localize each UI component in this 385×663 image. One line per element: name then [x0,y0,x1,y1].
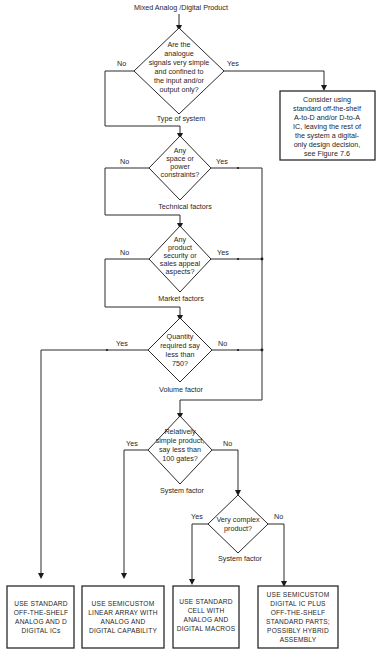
d5-line-1: Relatively [164,427,196,436]
d3-no-label: No [120,248,129,257]
consider-line-2: standard off-the-shelf [293,104,361,113]
d5-line-2: simple product, [156,436,205,445]
d5-no-connector [212,450,238,493]
outcome-standard-cell: USE STANDARD CELL WITH ANALOG AND DIGITA… [173,586,239,648]
d6-yes-connector [192,524,208,582]
d1-line-5: the input and/or [154,76,205,85]
outcome-standard-offshelf: USE STANDARD OFF-THE-SHELF ANALOG AND D … [7,586,74,648]
d1-line-3: signals very simple [149,58,210,67]
consider-line-6: only design decision, [294,140,361,149]
decision-technical-factors: Any space or power constraints? Technica… [120,136,228,211]
d1-factor-label: Type of system [157,114,205,123]
o4-line-5: POSSIBLY HYBRID [267,627,329,634]
decision-volume-factor: Quantity required say less than 750? Vol… [116,318,227,394]
d1-line-6: output only? [159,85,198,94]
o1-line-3: ANALOG AND D [15,618,67,625]
d1-yes-label: Yes [227,59,239,68]
d4-yes-label: Yes [116,339,128,348]
d1-line-4: and confined to [154,67,203,76]
o2-line-3: ANALOG AND [101,618,146,625]
o2-line-2: LINEAR ARRAY WITH [88,609,158,616]
o3-line-2: CELL WITH [188,607,225,614]
d1-line-1: Are the [167,40,190,49]
o4-line-2: DIGITAL IC PLUS [270,600,326,607]
consider-line-4: IC, leaving the rest of [293,122,361,131]
d4-line-4: 750? [172,359,188,368]
d6-no-connector [268,524,284,584]
decision-market-factors: Any product security or sales appeal asp… [120,226,229,303]
d4-yes-connector [41,350,148,576]
d2-no-label: No [120,157,129,166]
d5-yes-label: Yes [126,439,138,448]
d6-line-1: Very complex [216,515,260,524]
d1-no-label: No [117,59,126,68]
consider-line-1: Consider using [303,95,351,104]
d3-factor-label: Market factors [158,294,204,303]
o4-line-3: OFF-THE-SHELF [271,609,326,616]
d1-yes-connector [224,71,324,88]
d4-line-3: less than [166,350,195,359]
d2-yes-label: Yes [216,157,228,166]
d6-line-2: product? [224,524,252,533]
diagram-title: Mixed Analog /Digital Product [134,3,228,12]
o4-line-1: USE SEMICUSTOM [267,591,330,598]
decision-system-factor-gates: Relatively simple product, say less than… [126,416,232,495]
d4-line-1: Quantity [167,332,194,341]
d4-no-label: No [218,339,227,348]
d2-line-4: constraints? [161,170,200,179]
o2-line-4: DIGITAL CAPABILITY [89,627,157,634]
o1-line-2: OFF-THE-SHELF [14,609,69,616]
d4-factor-label: Volume factor [159,385,204,394]
d3-yes-arrow-dot [237,258,239,260]
decision-very-complex: Very complex product? System factor Yes … [191,495,283,563]
o3-line-3: ANALOG AND [184,616,229,623]
d4-no-arrow-dot [237,349,239,351]
d5-yes-connector [124,450,148,576]
d5-line-3: say less than [159,445,201,454]
flowchart: Mixed Analog /Digital Product Are the an… [0,0,385,663]
d3-junction-dot [261,258,264,261]
consider-adc-dac-box: Consider using standard off-the-shelf A-… [280,91,375,160]
d2-factor-label: Technical factors [158,202,212,211]
consider-line-3: A-to-D and/or D-to-A [294,113,360,122]
o3-line-4: DIGITAL MACROS [177,625,236,632]
d6-yes-label: Yes [191,512,203,521]
o1-line-1: USE STANDARD [14,600,68,607]
outcome-semicustom-digital-ic: USE SEMICUSTOM DIGITAL IC PLUS OFF-THE-S… [258,586,338,648]
o1-line-4: DIGITAL ICs [22,627,61,634]
consider-line-5: the system a digital- [295,131,360,140]
d4-yes-arrow-dot [106,349,108,351]
consider-line-7: see Figure 7.6 [304,149,350,158]
o2-line-1: USE SEMICUSTOM [92,600,155,607]
d6-no-label: No [274,512,283,521]
d2-yes-arrow-dot [237,167,239,169]
d5-no-label: No [223,439,232,448]
d5-line-4: 100 gates? [162,454,198,463]
o4-line-6: ASSEMBLY [280,636,317,643]
d6-factor-label: System factor [218,554,263,563]
d3-line-5: aspects? [166,267,195,276]
d3-yes-label: Yes [217,248,229,257]
o3-line-1: USE STANDARD [179,598,233,605]
d4-line-2: required say [160,341,200,350]
d1-line-2: analogue [164,49,194,58]
o4-line-4: STANDARD PARTS; [266,618,330,625]
outcome-semicustom-linear-array: USE SEMICUSTOM LINEAR ARRAY WITH ANALOG … [82,586,164,648]
d5-factor-label: System factor [160,486,205,495]
decision-type-of-system: Are the analogue signals very simple and… [117,28,239,123]
